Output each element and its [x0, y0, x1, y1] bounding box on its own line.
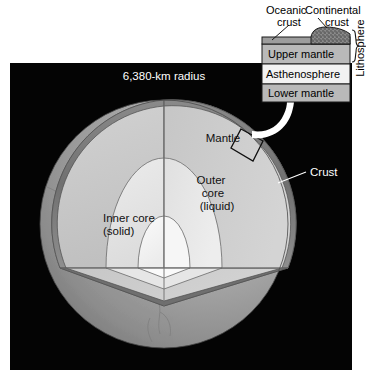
- inset-label-asthenosphere: Asthenosphere: [266, 68, 340, 80]
- mantle-label: Mantle: [206, 132, 241, 144]
- continental-crust-label-line1: Continental: [305, 4, 361, 16]
- inset-label-lower-mantle: Lower mantle: [268, 87, 334, 99]
- outer-core-label-line3: (liquid): [200, 200, 235, 212]
- continental-crust-label-line2: crust: [325, 16, 349, 28]
- inset-label-upper-mantle: Upper mantle: [268, 48, 334, 60]
- inner-core-label-line1: Inner core: [103, 212, 155, 224]
- diagram-canvas: Upper mantle Asthenosphere Lower mantle …: [0, 0, 366, 383]
- inner-core-label-line2: (solid): [103, 225, 134, 237]
- oceanic-crust-label-line1: Oceanic: [266, 4, 307, 16]
- earth-structure-figure: Upper mantle Asthenosphere Lower mantle …: [0, 0, 366, 383]
- lithosphere-label: Lithosphere: [354, 19, 366, 77]
- crust-label: Crust: [310, 166, 338, 178]
- radius-label: 6,380-km radius: [123, 70, 206, 82]
- outer-core-label-line2: core: [202, 187, 224, 199]
- outer-core-label-line1: Outer: [197, 174, 226, 186]
- oceanic-crust-label-line2: crust: [277, 16, 301, 28]
